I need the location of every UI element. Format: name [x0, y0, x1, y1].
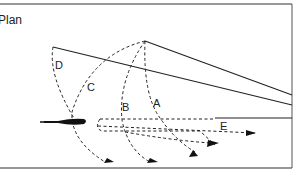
arrowhead-icon: [189, 150, 198, 157]
lower-boundary-line: [53, 47, 292, 105]
arrowhead-icon: [207, 140, 219, 147]
path-lower-dashed: [125, 132, 210, 143]
fish-icon: [40, 119, 86, 125]
path-turn: [97, 119, 215, 145]
path-e: [98, 126, 255, 133]
label-a: A: [153, 97, 161, 109]
arrowhead-icon: [246, 130, 256, 136]
label-d: D: [55, 59, 63, 71]
label-e: E: [220, 120, 227, 132]
plan-diagram: D C B A E: [0, 0, 298, 180]
path-d: [52, 47, 75, 120]
path-c: [72, 41, 145, 162]
arrowhead-icon: [104, 158, 114, 163]
arrowhead-icon: [147, 158, 158, 163]
label-b: B: [122, 101, 129, 113]
label-c: C: [87, 81, 95, 93]
